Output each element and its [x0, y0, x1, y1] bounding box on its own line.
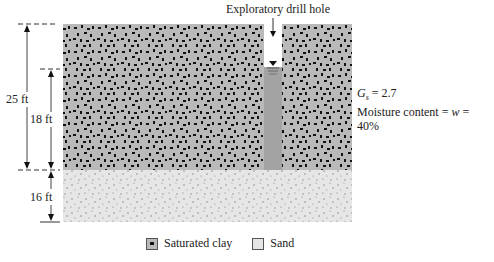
saturated-clay-swatch-icon	[146, 238, 158, 250]
moisture-content: Moisture content = w = 40%	[357, 105, 494, 133]
drill-hole-label: Exploratory drill hole	[226, 2, 330, 17]
water-column	[264, 67, 282, 170]
soil-properties: Gs = 2.7 Moisture content = w = 40%	[357, 86, 494, 133]
dimension-label-18ft: 18 ft	[30, 112, 52, 127]
sand-swatch-icon	[252, 238, 264, 250]
saturated-clay-layer	[63, 24, 352, 170]
dimension-label-25ft: 25 ft	[6, 92, 28, 107]
sand-layer	[63, 170, 352, 222]
specific-gravity: Gs = 2.7	[357, 86, 494, 105]
legend: Saturated clay Sand	[146, 236, 294, 251]
dimension-label-16ft: 16 ft	[30, 190, 52, 205]
legend-sand-label: Sand	[270, 236, 294, 251]
legend-clay-label: Saturated clay	[164, 236, 232, 251]
